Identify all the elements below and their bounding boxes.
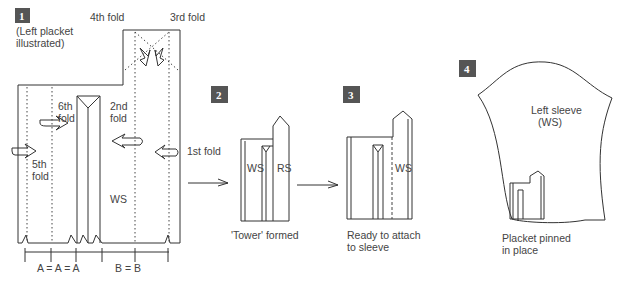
- step1-caption-line2: illustrated): [16, 37, 64, 49]
- placket-outline: [18, 30, 180, 243]
- step-arrow-icon: [188, 179, 338, 188]
- label-4th-fold: 4th fold: [90, 11, 125, 23]
- placket-drawing: [510, 171, 544, 221]
- tower-strip: [77, 96, 100, 243]
- sleeve-label-ws: (WS): [538, 116, 562, 128]
- step-3: 3 WS Ready to attach to sleeve: [343, 86, 421, 253]
- sleeve-label: Left sleeve: [531, 104, 582, 116]
- step-4: 4 Left sleeve (WS) Placket pinned in pla…: [459, 60, 612, 256]
- step-number-4: 4: [464, 63, 470, 75]
- sleeve-outline: [478, 62, 612, 223]
- step1-caption-line1: (Left placket: [16, 25, 73, 37]
- fold-arrow-icon: [12, 48, 178, 159]
- label-1st-fold: 1st fold: [187, 145, 221, 157]
- step4-caption-line2: in place: [502, 244, 538, 256]
- label-2nd-fold-2: fold: [110, 112, 127, 124]
- step-2: 2 WS RS 'Tower' formed: [211, 86, 299, 241]
- step-1: 1 (Left placket illustrated) 4th fold 3r…: [12, 8, 221, 274]
- label-6th-fold-2: fold: [58, 112, 75, 124]
- measure-b: B = B: [115, 262, 141, 274]
- step-number-1: 1: [19, 10, 25, 22]
- placket-diagram: 1 (Left placket illustrated) 4th fold 3r…: [0, 0, 629, 285]
- label-5th-fold: 5th: [32, 158, 47, 170]
- label-ws: WS: [247, 162, 264, 174]
- label-rs: RS: [277, 162, 292, 174]
- step-number-2: 2: [216, 89, 222, 101]
- label-2nd-fold: 2nd: [110, 100, 128, 112]
- label-ws: WS: [110, 193, 127, 205]
- step2-caption: 'Tower' formed: [231, 229, 299, 241]
- label-ws: WS: [395, 162, 412, 174]
- step-number-3: 3: [348, 89, 354, 101]
- label-3rd-fold: 3rd fold: [170, 11, 205, 23]
- measure-a: A = A = A: [37, 262, 80, 274]
- step4-caption-line1: Placket pinned: [502, 232, 571, 244]
- step3-caption-line2: to sleeve: [347, 241, 389, 253]
- step3-caption-line1: Ready to attach: [347, 229, 421, 241]
- measurement-line: [25, 248, 169, 262]
- label-6th-fold: 6th: [58, 100, 73, 112]
- label-5th-fold-2: fold: [32, 170, 49, 182]
